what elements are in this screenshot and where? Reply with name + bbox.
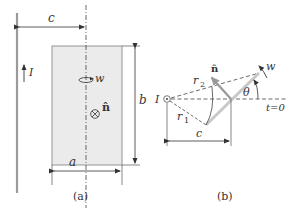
r1-label: r [177, 110, 183, 123]
t0-label: t=0 [266, 102, 285, 113]
r2-subscript: 2 [200, 80, 205, 89]
figure-b: n̂ w θ t=0 I r 2 r 1 c (b) [154, 60, 287, 203]
figure-a: I c w n̂ b a (a) [17, 5, 147, 208]
out-of-page-dot [166, 98, 168, 100]
diagram-canvas: I c w n̂ b a (a) [0, 0, 300, 215]
theta-arc [254, 80, 258, 99]
theta-label: θ [243, 86, 250, 99]
r2-label: r [193, 74, 199, 87]
angular-velocity-label: w [266, 60, 276, 73]
current-label: I [28, 66, 34, 79]
c-label: c [48, 11, 55, 25]
caption-b: (b) [217, 190, 233, 203]
c-label: c [196, 127, 202, 140]
b-label: b [139, 93, 147, 107]
normal-vector-label: n̂ [211, 63, 219, 74]
loop-rectangle [52, 46, 122, 165]
r1-subscript: 1 [184, 116, 189, 125]
a-label: a [69, 155, 76, 169]
normal-vector-label: n̂ [102, 101, 110, 114]
caption-a: (a) [73, 190, 88, 203]
current-label: I [154, 93, 160, 106]
normal-vector-arrow [212, 78, 231, 99]
angular-velocity-label: w [95, 72, 105, 85]
